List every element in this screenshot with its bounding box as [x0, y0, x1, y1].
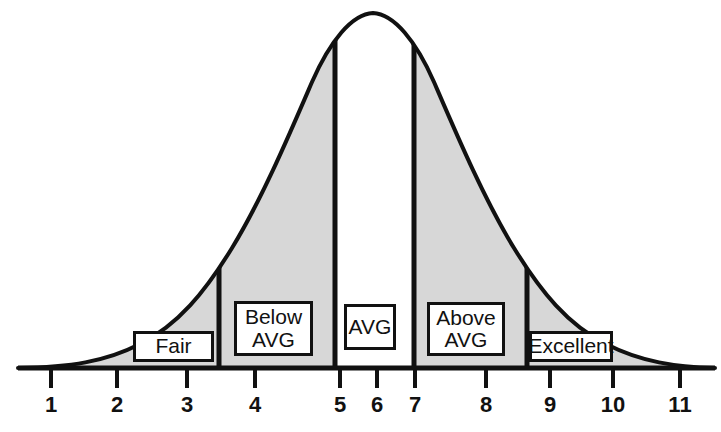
- label-box-excellent: Excellent: [529, 331, 613, 362]
- tick-label-10: 10: [601, 392, 625, 418]
- x-axis-ticks: [51, 368, 680, 388]
- tick-label-9: 9: [544, 392, 556, 418]
- tick-label-3: 3: [181, 392, 193, 418]
- tick-label-8: 8: [480, 392, 492, 418]
- tick-label-2: 2: [111, 392, 123, 418]
- tick-label-11: 11: [668, 392, 691, 418]
- tick-label-5: 5: [334, 392, 346, 418]
- label-box-avg: AVG: [344, 304, 396, 350]
- label-box-above-avg: Above AVG: [427, 302, 505, 356]
- bell-curve-diagram: Fair Below AVG AVG Above AVG Excellent 1…: [0, 0, 721, 432]
- tick-label-6: 6: [371, 392, 383, 418]
- label-box-below-avg: Below AVG: [234, 301, 313, 356]
- bell-curve-graphic: [0, 0, 721, 432]
- tick-label-4: 4: [249, 392, 261, 418]
- label-box-fair: Fair: [133, 331, 214, 362]
- tick-label-1: 1: [45, 392, 57, 418]
- tick-label-7: 7: [409, 392, 421, 418]
